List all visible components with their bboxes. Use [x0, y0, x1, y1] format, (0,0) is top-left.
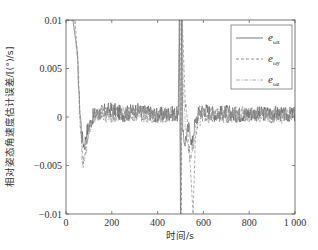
x-axis-title: 时间/s	[166, 230, 194, 241]
x-tick-label: 0	[64, 217, 69, 228]
y-tick-label: 0.01	[45, 15, 63, 26]
x-tick-label: 200	[104, 217, 119, 228]
x-tick-label: 600	[196, 217, 211, 228]
legend-box	[231, 25, 292, 89]
y-axis-title: 相对姿态角速度估计误差/[(°)/s]	[4, 47, 15, 188]
x-tick-label: 800	[242, 217, 257, 228]
chart-figure: 02004006008001 000 −0.01−0.00500.0050.01…	[0, 0, 318, 250]
y-tick-label: 0.005	[40, 63, 63, 74]
y-tick-label: −0.005	[34, 160, 62, 171]
x-tick-label: 1 000	[284, 217, 307, 228]
legend: eωxeωyeωz	[231, 25, 292, 89]
x-tick-label: 400	[150, 217, 165, 228]
y-tick-label: −0.01	[39, 209, 62, 220]
y-tick-label: 0	[57, 112, 62, 123]
